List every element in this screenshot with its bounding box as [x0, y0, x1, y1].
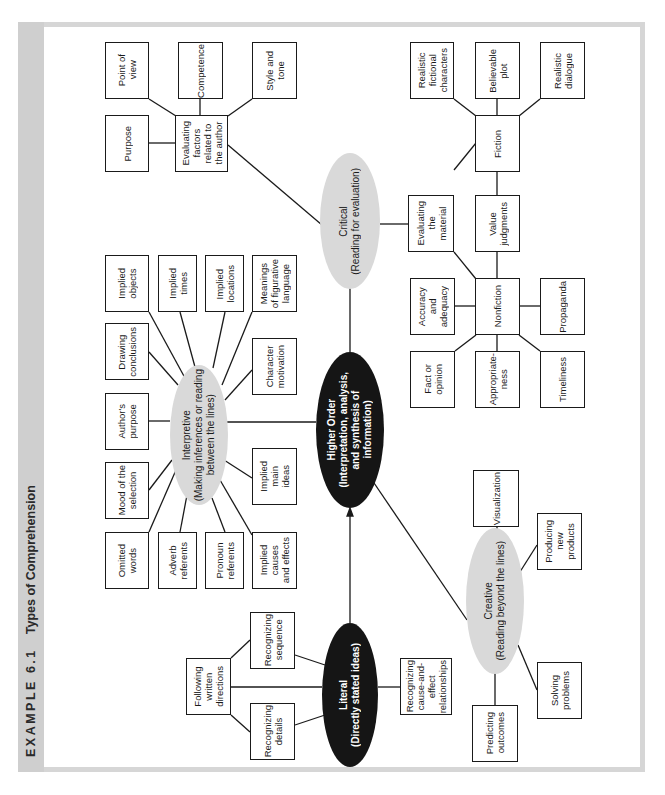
propaganda-box: Propaganda [540, 278, 585, 335]
authors-purpose-box: Author's purpose [105, 393, 149, 450]
realistic-characters-box: Realistic fictional characters [410, 42, 454, 99]
fiction-box: Fiction [475, 115, 520, 172]
figurative-language-box: Meanings of figurative language [252, 255, 297, 312]
implied-times-box: Implied times [158, 255, 197, 312]
recognizing-sequence-box: Recognizing sequence [250, 612, 295, 669]
value-judgments-box: Value judgments [475, 195, 520, 252]
character-motivation-box: Character motivation [252, 338, 297, 395]
purpose-box: Purpose [105, 115, 149, 172]
implied-main-ideas-box: Implied main ideas [252, 448, 297, 505]
fact-opinion-box: Fact or opinion [410, 351, 455, 408]
recognizing-cause-effect-box: Recognizing cause-and- effect relationsh… [400, 658, 452, 715]
creative-node: Creative (Reading beyond the lines) [466, 528, 524, 674]
evaluating-material-box: Evaluating the material [408, 195, 454, 252]
point-of-view-box: Point of view [105, 42, 149, 99]
solving-problems-box: Solving problems [537, 662, 582, 719]
timeliness-box: Timeliness [540, 351, 585, 408]
critical-node: Critical (Reading for evaluation) [320, 153, 380, 289]
drawing-conclusions-box: Drawing conclusions [105, 323, 149, 380]
nonfiction-box: Nonfiction [475, 278, 520, 335]
visualization-box: Visualization [473, 470, 519, 527]
evaluating-author-box: Evaluating factors related to the author [175, 115, 228, 172]
mood-box: Mood of the selection [105, 462, 149, 519]
adverb-referents-box: Adverb referents [158, 532, 197, 589]
implied-locations-box: Implied locations [205, 255, 244, 312]
literal-node: Literal (Directly stated ideas) [322, 623, 378, 767]
following-directions-box: Following written directions [186, 658, 231, 715]
appropriateness-box: Appropriate- ness [475, 351, 520, 408]
predicting-outcomes-box: Predicting outcomes [472, 705, 518, 762]
implied-objects-box: Implied objects [105, 255, 149, 312]
style-tone-box: Style and tone [252, 42, 297, 99]
competence-box: Competence [178, 42, 223, 99]
believable-plot-box: Believable plot [475, 42, 520, 99]
realistic-dialogue-box: Realistic dialogue [540, 42, 585, 99]
omitted-words-box: Omitted words [105, 532, 149, 589]
higher-order-node: Higher Order (Interpretation, analysis, … [316, 352, 384, 508]
pronoun-referents-box: Pronoun referents [205, 532, 244, 589]
producing-products-box: Producing new products [537, 513, 582, 570]
interpretive-node: Interpretive (Making inferences or readi… [170, 365, 228, 505]
accuracy-box: Accuracy and adequacy [410, 278, 455, 335]
recognizing-details-box: Recognizing details [250, 703, 295, 760]
implied-causes-box: Implied causes and effects [252, 532, 297, 589]
